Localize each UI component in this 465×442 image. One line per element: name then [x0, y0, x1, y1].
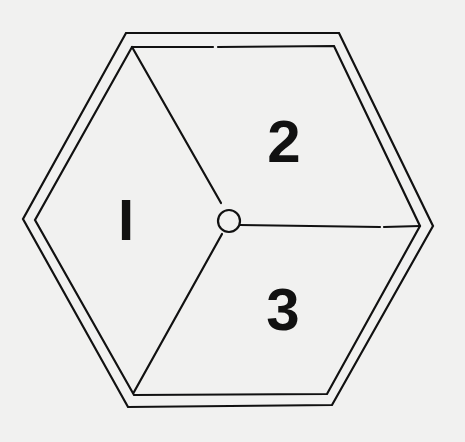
spoke-right-a [240, 225, 380, 227]
spoke-right-b [384, 226, 420, 227]
region-1-label: I [118, 187, 134, 252]
spoke-top-left [132, 47, 221, 203]
hexagon-diagram: I 2 3 [0, 0, 465, 442]
spoke-bottom-left [134, 234, 222, 392]
outer-hexagon [23, 33, 433, 407]
diagram-canvas: I 2 3 [0, 0, 465, 442]
region-2-label: 2 [267, 108, 300, 175]
center-hub-circle [218, 210, 240, 232]
region-3-label: 3 [266, 276, 299, 343]
